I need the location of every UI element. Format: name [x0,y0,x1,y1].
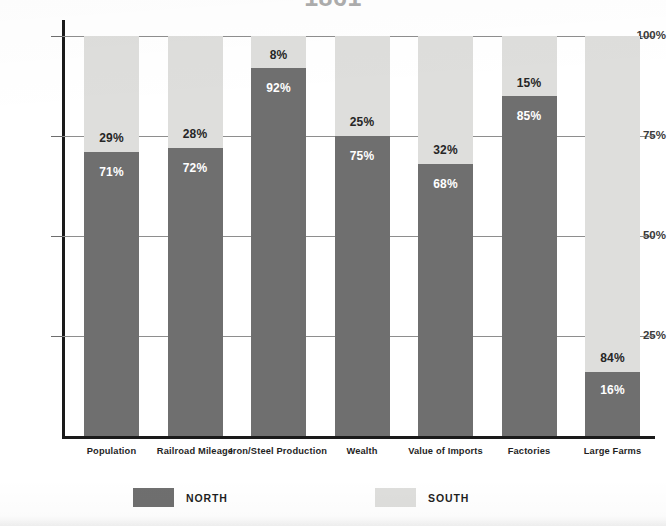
bar-segment-north[interactable]: 92% [251,68,306,436]
bar-value-label: 29% [99,132,124,144]
bar-segment-south[interactable]: 29% [84,36,139,152]
bar-group[interactable]: 71%29% [84,36,139,436]
bar-segment-north[interactable]: 85% [502,96,557,436]
bar-segment-north[interactable]: 72% [168,148,223,436]
bar-value-label: 28% [183,128,208,140]
chart-plot-area: 100%75%50%25% 71%29%Population72%28%Rail… [0,0,666,470]
bar-segment-south[interactable]: 32% [418,36,473,164]
bar-value-label: 85% [517,110,542,122]
bar-value-label: 75% [350,150,375,162]
bar-value-label: 32% [433,144,458,156]
bottom-edge-shadow [0,516,666,526]
bar-value-label: 71% [99,166,124,178]
bar-group[interactable]: 92%8% [251,36,306,436]
legend-label: NORTH [186,492,228,504]
bar-group[interactable]: 72%28% [168,36,223,436]
bar-value-label: 8% [270,49,288,61]
x-axis-category-label: Large Farms [543,446,671,456]
bar-segment-north[interactable]: 75% [335,136,390,436]
bar-value-label: 25% [350,116,375,128]
bar-value-label: 15% [517,77,542,89]
bar-segment-south[interactable]: 84% [585,36,640,372]
bar-segment-north[interactable]: 68% [418,164,473,436]
north-swatch-icon [133,488,174,507]
bar-segment-south[interactable]: 15% [502,36,557,96]
bar-group[interactable]: 68%32% [418,36,473,436]
bar-segment-south[interactable]: 8% [251,36,306,68]
legend-item[interactable]: SOUTH [375,488,469,507]
bar-group[interactable]: 85%15% [502,36,557,436]
legend-item[interactable]: NORTH [133,488,228,507]
bar-segment-north[interactable]: 16% [585,372,640,436]
bar-value-label: 92% [266,82,291,94]
chart-legend: NORTHSOUTH [0,488,666,514]
bar-series-layer: 71%29%Population72%28%Railroad Mileage92… [0,0,666,470]
bar-value-label: 68% [433,178,458,190]
bar-value-label: 72% [183,162,208,174]
bar-value-label: 84% [600,352,625,364]
bar-value-label: 16% [600,384,625,396]
bar-group[interactable]: 16%84% [585,36,640,436]
south-swatch-icon [375,488,416,507]
legend-label: SOUTH [428,492,469,504]
bar-segment-south[interactable]: 28% [168,36,223,148]
bar-segment-north[interactable]: 71% [84,152,139,436]
bar-group[interactable]: 75%25% [335,36,390,436]
bar-segment-south[interactable]: 25% [335,36,390,136]
